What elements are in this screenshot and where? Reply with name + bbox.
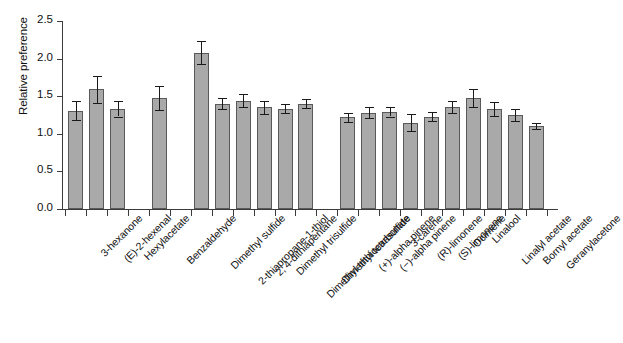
y-tick-label: 1.5 [19,88,53,100]
bar [361,113,376,209]
bar [382,112,397,209]
error-bar [222,98,223,109]
bar [278,109,293,209]
error-bar [452,101,453,113]
y-tick-label: 2.0 [19,51,53,63]
error-bar-cap [407,131,416,132]
bar [257,107,272,209]
error-bar-cap [218,109,227,110]
error-bar-cap [302,99,311,100]
error-bar-cap [281,104,290,105]
bar [508,115,523,209]
error-bar-cap [469,89,478,90]
error-bar-cap [511,121,520,122]
error-bar-cap [448,113,457,114]
error-bar [432,112,433,121]
error-bar-cap [344,113,353,114]
y-tick-label-wrap: 2.0 [57,59,63,60]
error-bar [515,109,516,121]
bar [89,89,104,209]
error-bar [201,41,202,64]
error-bar-cap [155,110,164,111]
error-bar [264,101,265,115]
error-bar-cap [490,116,499,117]
error-bar [473,89,474,107]
bar [110,109,125,209]
error-bar-cap [302,108,311,109]
error-bar-cap [469,107,478,108]
bar [340,117,355,209]
error-bar [390,107,391,116]
bar [466,98,481,209]
error-bar-cap [114,117,123,118]
error-bar-cap [93,103,102,104]
error-bar [411,114,412,131]
error-bar-cap [428,112,437,113]
error-bar-cap [407,114,416,115]
error-bar-cap [197,64,206,65]
error-bar [118,101,119,116]
y-tick-label: 1.0 [19,126,53,138]
error-bar [494,102,495,116]
error-bar-cap [386,107,395,108]
error-bar-cap [511,109,520,110]
error-bar [97,76,98,103]
bar [529,126,544,209]
bar [236,101,251,209]
error-bar-cap [72,120,81,121]
error-bar-cap [93,76,102,77]
error-bar-cap [365,118,374,119]
error-bar-cap [532,129,541,130]
y-tick-label-wrap: 1.5 [57,96,63,97]
error-bar-cap [260,101,269,102]
error-bar [369,107,370,118]
error-bar-cap [260,114,269,115]
bar [152,98,167,209]
bar [445,107,460,209]
bar [215,104,230,209]
error-bar [348,113,349,122]
error-bar-cap [428,121,437,122]
error-bar-cap [72,101,81,102]
y-tick-label: 0.0 [19,201,53,213]
error-bar-cap [448,101,457,102]
y-tick-label: 2.5 [19,13,53,25]
error-bar-cap [365,107,374,108]
error-bar [285,104,286,113]
error-bar-cap [155,86,164,87]
error-bar-cap [114,101,123,102]
error-bar-cap [532,123,541,124]
y-axis-line [62,21,63,210]
x-tick-label: Benzaldehyde [184,212,238,266]
error-bar-cap [281,113,290,114]
error-bar-cap [218,98,227,99]
y-tick-label-wrap: 1.0 [57,134,63,135]
bar [298,104,313,209]
plot-area: 0.00.51.01.52.02.5 [63,21,557,209]
error-bar [243,94,244,108]
y-tick-label: 0.5 [19,163,53,175]
error-bar-cap [239,94,248,95]
bar [68,111,83,210]
error-bar-cap [490,102,499,103]
error-bar-cap [239,107,248,108]
x-axis-labels: 3-hexanone(E)-2-hexenalHexylacetateBenza… [63,212,563,332]
error-bar [306,99,307,108]
y-tick-label-wrap: 2.5 [57,21,63,22]
y-tick-label-wrap: 0.0 [57,209,63,210]
bar [403,123,418,209]
error-bar [76,101,77,121]
error-bar-cap [386,117,395,118]
error-bar-cap [197,41,206,42]
bar [487,109,502,209]
error-bar [159,86,160,110]
error-bar-cap [344,122,353,123]
y-tick-label-wrap: 0.5 [57,171,63,172]
bar [424,117,439,209]
bar [194,53,209,209]
